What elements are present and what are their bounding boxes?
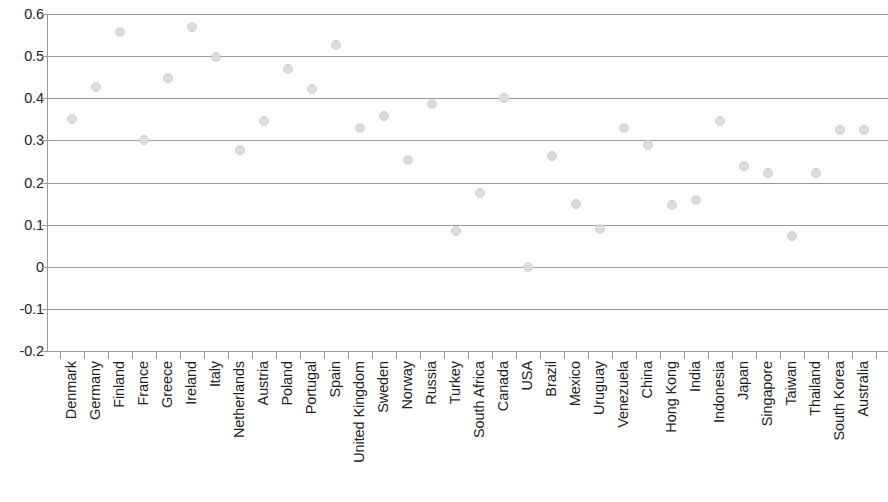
y-axis-tick-mark [42,351,48,352]
x-axis-tick-mark [852,352,853,359]
data-point [139,135,149,145]
y-axis-tick-label: 0.1 [2,217,44,232]
x-axis-tick-label: Thailand [808,361,823,416]
x-axis-tick-mark [132,352,133,359]
x-axis-tick-mark [108,352,109,359]
y-axis-tick-mark [42,183,48,184]
x-axis-tick-label: USA [520,361,535,391]
x-axis-tick-mark [732,352,733,359]
x-axis-tick-mark [420,352,421,359]
data-point [571,199,581,209]
data-point [787,231,797,241]
x-axis-tick-label: Uruguay [592,361,607,415]
x-axis-tick-label: Denmark [64,361,79,419]
x-axis-tick-label: Sweden [376,361,391,413]
data-point [259,116,269,126]
gridline [48,183,888,184]
x-axis-tick-label: Portugal [304,361,319,414]
x-axis-tick-mark [468,352,469,359]
x-axis-tick-mark [204,352,205,359]
data-point [763,168,773,178]
data-point [523,262,533,272]
x-axis-tick-mark [684,352,685,359]
x-axis-tick-label: Russia [424,361,439,405]
x-axis-tick-label: Norway [400,361,415,410]
x-axis-tick-label: Hong Kong [664,361,679,433]
x-axis-tick-mark [636,352,637,359]
x-axis-tick-label: Poland [280,361,295,406]
data-point [619,123,629,133]
x-axis-tick-label: Finland [112,361,127,408]
y-axis-tick-label: 0.6 [2,7,44,22]
data-point [115,27,125,37]
y-axis-tick-label: 0.4 [2,91,44,106]
x-axis-tick-mark [612,352,613,359]
x-axis-tick-label: Taiwan [784,361,799,406]
x-axis-tick-label: India [688,361,703,392]
data-point [355,123,365,133]
x-axis-tick-label: Singapore [760,361,775,426]
data-point [307,84,317,94]
x-axis-tick-label: Japan [736,361,751,400]
x-axis-tick-mark [84,352,85,359]
x-axis-tick-label: Germany [88,361,103,420]
y-axis-tick-mark [42,309,48,310]
data-point [403,155,413,165]
x-axis-tick-label: Canada [496,361,511,411]
x-axis-tick-mark [708,352,709,359]
x-axis-tick-label: China [640,361,655,398]
data-point [163,73,173,83]
x-axis-tick-mark [876,352,877,359]
x-axis-tick-mark [180,352,181,359]
y-axis-tick-label: 0.5 [2,49,44,64]
data-point [811,168,821,178]
data-point [379,111,389,121]
data-point [91,82,101,92]
x-axis-tick-label: Greece [160,361,175,408]
x-axis-tick-mark [756,352,757,359]
data-point [187,22,197,32]
x-axis-tick-mark [828,352,829,359]
x-axis-tick-label: Ireland [184,361,199,405]
data-point [451,226,461,236]
x-axis-tick-label: Spain [328,361,343,398]
x-axis-tick-mark [372,352,373,359]
x-axis-tick-mark [228,352,229,359]
x-axis-tick-mark [396,352,397,359]
x-axis-tick-mark [252,352,253,359]
y-axis-tick-label: 0 [2,260,44,275]
x-axis-tick-label: South Africa [472,361,487,438]
x-axis-tick-mark [516,352,517,359]
data-point [691,195,701,205]
data-point [427,99,437,109]
x-axis-tick-mark [300,352,301,359]
x-axis-tick-label: Brazil [544,361,559,397]
x-axis-tick-label: Australia [856,361,871,417]
y-axis-tick-mark [42,225,48,226]
x-axis-tick-mark [564,352,565,359]
x-axis-tick-mark [156,352,157,359]
x-axis-tick-label: Netherlands [232,361,247,438]
gridline [48,225,888,226]
x-axis-tick-label: Turkey [448,361,463,404]
x-axis-tick-mark [444,352,445,359]
x-axis-tick-mark [492,352,493,359]
y-axis-tick-mark [42,140,48,141]
data-point [67,114,77,124]
y-axis-labels: 0.60.50.40.30.20.10-0.1-0.2 [0,0,44,502]
data-point [547,151,557,161]
x-axis-tick-label: Italy [208,361,223,387]
gridline [48,267,888,268]
data-point [835,125,845,135]
gridline [48,309,888,310]
y-axis-tick-label: 0.3 [2,133,44,148]
data-point [235,145,245,155]
y-axis-tick-label: -0.2 [2,344,44,359]
data-point [667,200,677,210]
data-point [595,224,605,234]
y-axis-tick-mark [42,267,48,268]
gridline [48,140,888,141]
y-axis-tick-mark [42,14,48,15]
data-point [475,188,485,198]
data-point [643,140,653,150]
